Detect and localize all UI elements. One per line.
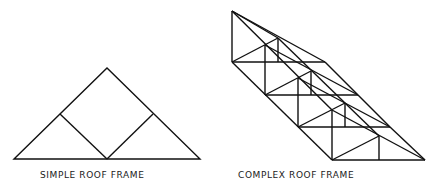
simple-outer-triangle [14, 68, 200, 159]
simple-right-brace [107, 114, 153, 159]
simple-left-brace [60, 114, 107, 159]
simple-roof-frame-caption: SIMPLE ROOF FRAME [40, 170, 144, 180]
complex-roof-frame [232, 11, 425, 160]
complex-roof-frame-caption: COMPLEX ROOF FRAME [238, 170, 354, 180]
roof-frames-diagram [0, 0, 438, 192]
simple-roof-frame [14, 68, 200, 159]
